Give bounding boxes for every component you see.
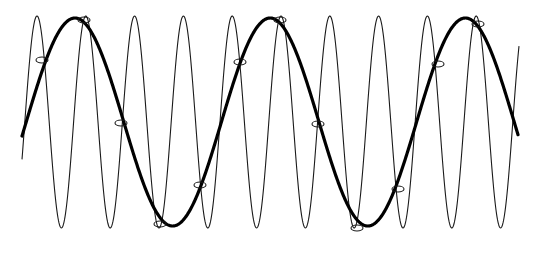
aliased-low-frequency-wave (22, 18, 518, 226)
sample-point-marker (351, 225, 363, 231)
high-frequency-wave (22, 16, 519, 228)
aliasing-diagram (0, 0, 534, 253)
